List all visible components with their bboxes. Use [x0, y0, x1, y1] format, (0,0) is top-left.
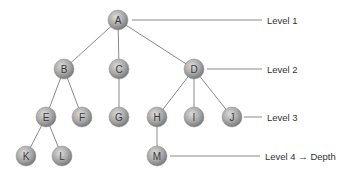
- node-label: J: [230, 112, 235, 123]
- tree-node-g: G: [109, 107, 129, 127]
- level-indicators: Level 1Level 2Level 3Level 4 → Depth: [132, 15, 336, 162]
- node-label: D: [190, 64, 197, 75]
- level-label: Level 1: [267, 15, 298, 26]
- node-label: A: [115, 15, 122, 26]
- level-label: Level 2: [267, 64, 298, 75]
- node-label: K: [23, 151, 30, 162]
- edge-A-B: [64, 20, 118, 69]
- level-label: Level 4 → Depth: [265, 151, 336, 162]
- node-label: G: [115, 112, 123, 123]
- edge-A-D: [118, 20, 194, 69]
- tree-node-m: M: [147, 146, 167, 166]
- node-label: B: [61, 64, 68, 75]
- tree-node-a: A: [108, 10, 128, 30]
- tree-node-b: B: [54, 59, 74, 79]
- level-label: Level 3: [267, 112, 298, 123]
- tree-node-i: I: [184, 107, 204, 127]
- tree-nodes: ABCDEFGHIJKLM: [16, 10, 242, 166]
- tree-node-h: H: [147, 107, 167, 127]
- tree-diagram: Level 1Level 2Level 3Level 4 → Depth ABC…: [0, 0, 347, 186]
- node-label: E: [43, 112, 50, 123]
- tree-node-k: K: [16, 146, 36, 166]
- node-label: I: [193, 112, 196, 123]
- tree-node-l: L: [52, 146, 72, 166]
- tree-node-f: F: [72, 107, 92, 127]
- node-label: H: [153, 112, 160, 123]
- node-label: C: [115, 64, 122, 75]
- tree-node-j: J: [222, 107, 242, 127]
- tree-edges: [26, 20, 232, 156]
- node-label: L: [59, 151, 65, 162]
- tree-node-c: C: [109, 59, 129, 79]
- tree-node-d: D: [184, 59, 204, 79]
- node-label: M: [153, 151, 161, 162]
- tree-node-e: E: [36, 107, 56, 127]
- node-label: F: [79, 112, 85, 123]
